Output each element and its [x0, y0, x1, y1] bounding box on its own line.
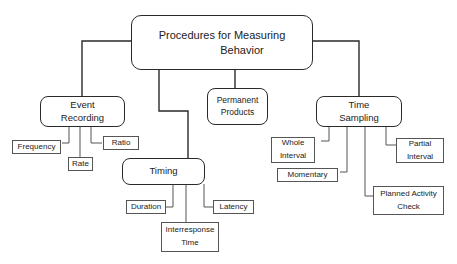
- leaf-latency: Latency: [213, 200, 254, 214]
- leaf-ratio-label: Ratio: [112, 137, 131, 150]
- root-label-line2: Behavior: [180, 43, 263, 58]
- leaf-whole-line1: Whole: [282, 137, 305, 150]
- leaf-interresponse-time: Interresponse Time: [161, 222, 219, 252]
- leaf-rate-label: Rate: [72, 158, 89, 171]
- procedures-diagram: Procedures for Measuring Behavior Event …: [0, 0, 457, 264]
- leaf-whole-interval: Whole Interval: [271, 137, 315, 163]
- leaf-partial-interval: Partial Interval: [396, 138, 444, 163]
- timing-node: Timing: [122, 158, 205, 185]
- leaf-frequency-label: Frequency: [18, 141, 56, 154]
- leaf-latency-label: Latency: [219, 201, 247, 214]
- leaf-partial-line2: Interval: [407, 151, 433, 164]
- event-recording-line2: Recording: [61, 112, 104, 125]
- leaf-partial-line1: Partial: [409, 138, 432, 151]
- leaf-frequency: Frequency: [12, 140, 61, 154]
- event-recording-line1: Event: [70, 99, 94, 112]
- leaf-planned-line2: Check: [397, 201, 420, 214]
- root-label-line1: Procedures for Measuring: [159, 28, 286, 43]
- leaf-whole-line2: Interval: [280, 150, 306, 163]
- permanent-products-line2: Products: [221, 107, 255, 118]
- leaf-duration-label: Duration: [131, 201, 161, 214]
- event-recording-node: Event Recording: [40, 96, 125, 127]
- leaf-momentary: Momentary: [277, 168, 338, 182]
- leaf-ratio: Ratio: [103, 136, 139, 150]
- root-node: Procedures for Measuring Behavior: [131, 15, 313, 70]
- leaf-planned-line1: Planned Activity: [380, 188, 436, 201]
- time-sampling-line1: Time: [349, 99, 370, 112]
- permanent-products-line1: Permanent: [217, 95, 259, 106]
- timing-label: Timing: [149, 165, 177, 178]
- leaf-interresponse-line1: Interresponse: [166, 224, 215, 237]
- leaf-interresponse-line2: Time: [181, 237, 198, 250]
- leaf-planned-activity-check: Planned Activity Check: [373, 186, 444, 215]
- permanent-products-node: Permanent Products: [207, 88, 268, 125]
- leaf-rate: Rate: [68, 157, 93, 171]
- leaf-momentary-label: Momentary: [287, 169, 327, 182]
- time-sampling-line2: Sampling: [339, 112, 379, 125]
- time-sampling-node: Time Sampling: [316, 96, 402, 127]
- leaf-duration: Duration: [126, 200, 166, 214]
